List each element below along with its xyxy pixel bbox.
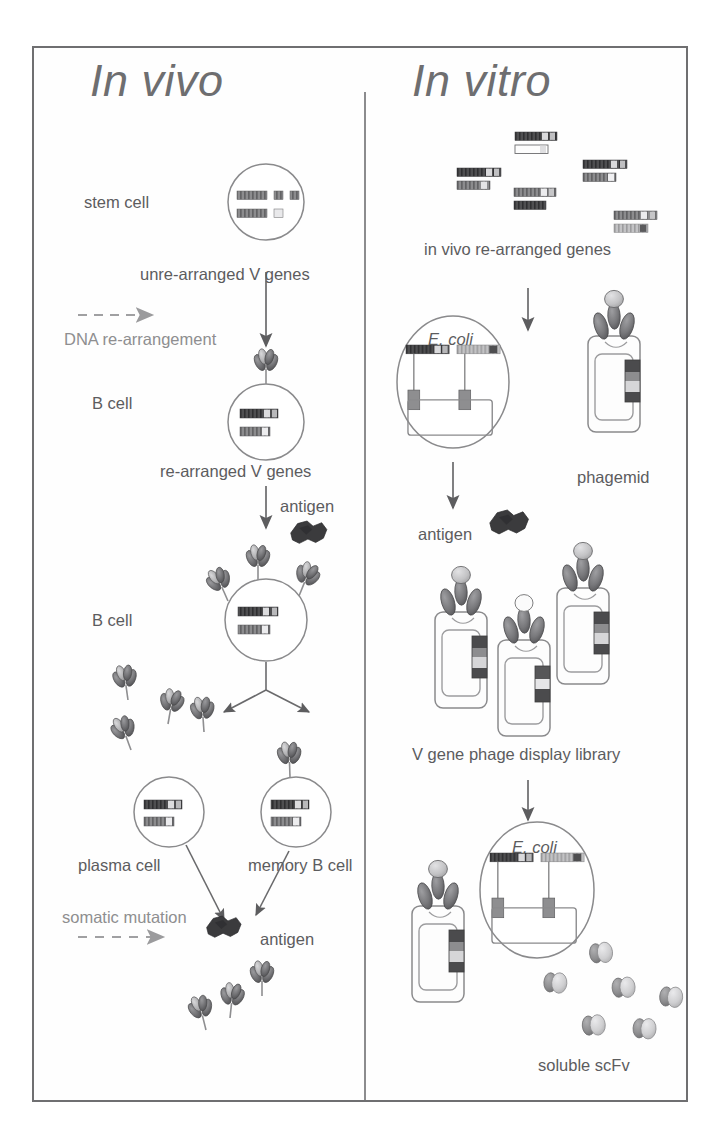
label-plasma-cell: plasma cell xyxy=(78,856,161,875)
label-phage-library: V gene phage display library xyxy=(412,745,620,764)
label-e-coli-bottom: E. coli xyxy=(512,838,557,857)
label-invivo-rearranged-genes: in vivo re-arranged genes xyxy=(424,240,611,259)
label-antigen-2: antigen xyxy=(260,930,314,949)
panel-title-in-vitro: In vitro xyxy=(412,55,551,107)
label-antigen-3: antigen xyxy=(418,525,472,544)
label-dna-rearrangement: DNA re-arrangement xyxy=(64,330,216,349)
label-b-cell-1: B cell xyxy=(92,394,132,413)
panel-title-in-vivo: In vivo xyxy=(90,55,224,107)
label-b-cell-2: B cell xyxy=(92,611,132,630)
panel-divider xyxy=(364,92,366,1100)
label-soluble-scfv: soluble scFv xyxy=(538,1056,630,1075)
label-unrearranged-genes: unre-arranged V genes xyxy=(140,265,310,284)
label-stem-cell: stem cell xyxy=(84,193,149,212)
label-phagemid: phagemid xyxy=(577,468,649,487)
label-somatic-mutation: somatic mutation xyxy=(62,908,187,927)
label-antigen-1: antigen xyxy=(280,497,334,516)
diagram-figure: In vivo In vitro xyxy=(0,0,715,1147)
label-invivo-italic: in vivo xyxy=(424,240,471,258)
label-memory-b-cell: memory B cell xyxy=(248,856,353,875)
label-e-coli-top: E. coli xyxy=(428,330,473,349)
label-invivo-rest: re-arranged genes xyxy=(471,240,611,258)
label-rearranged-genes: re-arranged V genes xyxy=(160,462,311,481)
